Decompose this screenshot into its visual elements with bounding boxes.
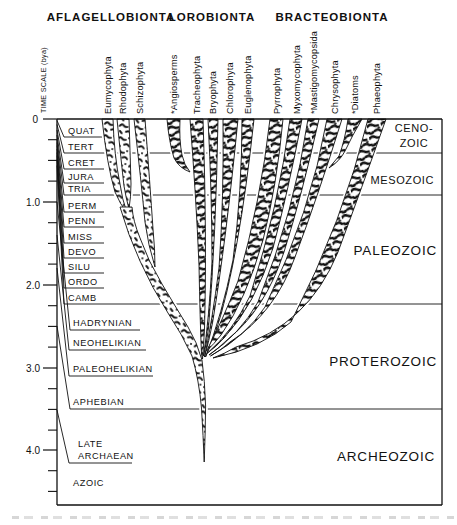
period-label-ordo: ORDO	[68, 277, 98, 287]
tick-label-0: 0	[32, 114, 38, 125]
branches	[102, 119, 386, 462]
group-header-lorobionta: LOROBIONTA	[169, 11, 255, 23]
taxon-label-phaeophyta: Phaeophyta	[372, 62, 382, 114]
interval-label-hadrynian: HADRYNIAN	[73, 318, 132, 328]
period-label-miss: MISS	[68, 232, 92, 242]
era-label-mesozoic: MESOZOIC	[371, 174, 434, 186]
axis-tick-labels: 0 1.0 2.0 3.0 4.0	[26, 114, 40, 456]
taxon-label-bryophyta: Bryophyta	[208, 70, 218, 114]
era-labels: CENO- ZOIC MESOZOIC PALEOZOIC PROTEROZOI…	[329, 122, 437, 464]
taxon-label-rhodophyta: Rhodophyta	[118, 62, 128, 114]
group-header-bracteobionta: BRACTEOBIONTA	[275, 11, 388, 23]
era-label-proterozoic: PROTEROZOIC	[329, 354, 437, 369]
tick-label-4: 4.0	[26, 445, 40, 456]
branch-tracheophyta	[190, 119, 205, 359]
taxon-label-chrysophyta: Chrysophyta	[330, 60, 340, 114]
tick-label-3: 3.0	[26, 363, 40, 374]
taxon-label-tracheophyta: Tracheophyta	[192, 55, 202, 114]
era-label-paleozoic: PALEOZOIC	[354, 243, 437, 258]
taxon-label-diatoms: *Diatoms	[350, 75, 360, 114]
precambrian-labels: HADRYNIAN NEOHELIKIAN PALEOHELIKIAN APHE…	[73, 318, 153, 488]
taxon-label-schizophyta: Schizophyta	[135, 61, 145, 114]
period-label-tria: TRIA	[68, 184, 91, 194]
taxon-label-myxomycophyta: Myxomycophyta	[292, 44, 302, 114]
axis-minor-ticks	[48, 140, 57, 492]
tick-label-2: 2.0	[26, 280, 40, 291]
taxon-label-mastigomycopsida: *Mastigomycopsida	[309, 30, 319, 114]
taxon-label-angiosperms: *Angiosperms	[169, 54, 179, 114]
period-label-perm: PERM	[68, 201, 97, 211]
interval-label-late-archaean-line1: LATE	[78, 439, 103, 449]
era-label-cenozoic-line1: CENO-	[395, 122, 433, 134]
axis-major-ticks	[43, 119, 57, 450]
cropped-caption-remnant	[12, 516, 457, 519]
period-label-cret: CRET	[68, 158, 95, 168]
tick-label-1: 1.0	[26, 197, 40, 208]
taxon-labels: Eumycophyta Rhodophyta Schizophyta *Angi…	[103, 30, 382, 114]
taxon-label-eumycophyta: Eumycophyta	[103, 55, 113, 114]
taxon-label-chlorophyta: Chlorophyta	[225, 62, 235, 114]
period-label-tert: TERT	[68, 142, 94, 152]
interval-label-azoic: AZOIC	[73, 478, 104, 488]
period-label-penn: PENN	[68, 216, 96, 226]
period-label-quat: QUAT	[68, 126, 95, 136]
era-label-archeozoic: ARCHEOZOIC	[337, 449, 435, 464]
period-label-camb: CAMB	[68, 293, 97, 303]
period-label-jura: JURA	[68, 172, 94, 182]
era-label-cenozoic-line2: ZOIC	[400, 137, 429, 149]
time-scale-axis-label: TIME SCALE (bya)	[39, 47, 48, 113]
taxon-label-euglenophyta: Euglenophyta	[243, 55, 253, 114]
interval-label-neohelikian: NEOHELIKIAN	[73, 338, 141, 348]
taxon-label-pyrrophyta: Pyrrophyta	[272, 67, 282, 114]
interval-label-late-archaean-line2: ARCHAEAN	[78, 451, 134, 461]
phylogeny-time-scale-figure: AFLAGELLOBIONTA LOROBIONTA BRACTEOBIONTA…	[0, 0, 457, 525]
group-header-aflagellobionta: AFLAGELLOBIONTA	[47, 11, 176, 23]
period-label-devo: DEVO	[68, 247, 96, 257]
period-label-silu: SILU	[68, 262, 90, 272]
interval-label-paleohelikian: PALEOHELIKIAN	[73, 364, 153, 374]
phylogeny-diagram: AFLAGELLOBIONTA LOROBIONTA BRACTEOBIONTA…	[0, 0, 457, 525]
interval-label-aphebian: APHEBIAN	[73, 397, 124, 407]
